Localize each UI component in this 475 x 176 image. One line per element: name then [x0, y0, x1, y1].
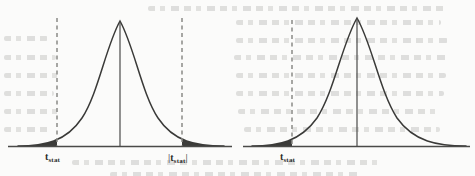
one-tailed-test-panel: tstat	[238, 0, 475, 176]
t-distribution-figure: tstat |tstat| tstat	[0, 0, 475, 176]
left-critical-label-subscript: stat	[48, 156, 60, 164]
left-critical-label-subscript: stat	[283, 156, 295, 164]
left-tail-shaded-region	[0, 0, 57, 146]
two-tailed-test-panel: tstat |tstat|	[0, 0, 238, 176]
left-critical-label: tstat	[280, 151, 295, 162]
left-tail-shaded-region	[238, 0, 292, 146]
right-critical-label-subscript: stat	[174, 157, 186, 165]
abs-bar-close-icon: |	[185, 151, 187, 163]
right-critical-label: |tstat|	[168, 151, 188, 163]
bell-curve	[252, 18, 466, 146]
bell-curve	[18, 21, 224, 146]
left-critical-label: tstat	[45, 151, 60, 162]
right-tail-shaded-region	[182, 0, 238, 146]
